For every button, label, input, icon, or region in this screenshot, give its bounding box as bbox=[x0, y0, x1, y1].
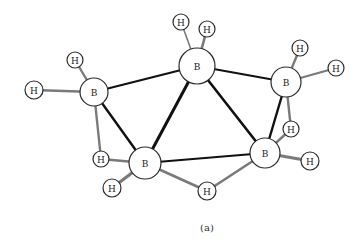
boron-atom-B3: B bbox=[271, 67, 301, 97]
atom-label: B bbox=[142, 159, 149, 169]
hydrogen-atom-H8: H bbox=[103, 179, 121, 197]
atom-label: H bbox=[108, 184, 116, 194]
hydrogen-atom-H10: H bbox=[283, 121, 299, 137]
boron-atom-B2: B bbox=[179, 48, 215, 84]
hydrogen-atom-H5: H bbox=[292, 40, 308, 56]
boron-atom-B5: B bbox=[250, 138, 280, 168]
boron-atom-B1: B bbox=[80, 78, 108, 106]
atom-label: B bbox=[283, 78, 290, 88]
atom-label: H bbox=[71, 56, 79, 66]
atom-label: B bbox=[262, 149, 269, 159]
borane-cluster-diagram: BBBBBHHHHHHHHHHH (a) bbox=[0, 0, 363, 245]
hydrogen-atom-H3: H bbox=[173, 14, 189, 30]
atom-label: B bbox=[194, 62, 201, 72]
hydrogen-atom-H11: H bbox=[301, 152, 319, 170]
atom-label: B bbox=[91, 88, 98, 98]
atom-label: H bbox=[296, 44, 304, 54]
hydrogen-atom-H6: H bbox=[328, 60, 344, 76]
atom-label: H bbox=[177, 18, 185, 28]
hydrogen-atom-H7: H bbox=[93, 151, 109, 167]
atom-label: H bbox=[97, 155, 105, 165]
atom-layer: BBBBBHHHHHHHHHHH bbox=[25, 14, 344, 200]
hydrogen-atom-H9: H bbox=[198, 182, 216, 200]
atom-label: H bbox=[30, 86, 38, 96]
hydrogen-atom-H1: H bbox=[67, 52, 83, 68]
boron-boron-bond-B4-B5 bbox=[145, 153, 265, 163]
hydrogen-atom-H2: H bbox=[25, 81, 43, 99]
atom-label: H bbox=[203, 187, 211, 197]
atom-label: H bbox=[332, 64, 340, 74]
boron-atom-B4: B bbox=[129, 147, 161, 179]
atom-label: H bbox=[203, 25, 211, 35]
atom-label: H bbox=[306, 157, 314, 167]
atom-label: H bbox=[287, 125, 295, 135]
hydrogen-atom-H4: H bbox=[199, 21, 215, 37]
figure-caption: (a) bbox=[200, 222, 214, 233]
bond-layer bbox=[34, 22, 336, 191]
